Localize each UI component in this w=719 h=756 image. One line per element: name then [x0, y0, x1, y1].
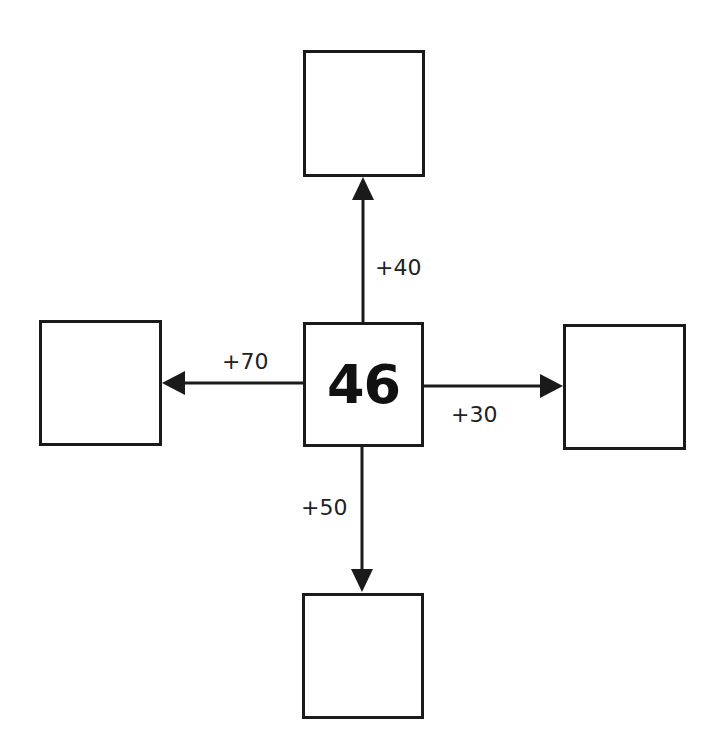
label-down-operation: +50: [301, 497, 347, 519]
arrowhead-down-icon: [351, 569, 373, 592]
arrowhead-left-icon: [162, 371, 185, 395]
arrow-left: [162, 371, 303, 395]
arrowhead-up-icon: [352, 177, 374, 200]
answer-box-top[interactable]: [303, 50, 425, 177]
arrow-down: [351, 446, 373, 592]
label-left-operation: +70: [222, 351, 268, 373]
arrow-up: [352, 177, 374, 322]
label-right-operation: +30: [451, 404, 497, 426]
center-box: 46: [303, 322, 424, 447]
label-up-operation: +40: [375, 257, 421, 279]
answer-box-right[interactable]: [563, 324, 686, 450]
center-value: 46: [327, 353, 400, 416]
answer-box-bottom[interactable]: [302, 593, 424, 719]
arrow-right: [423, 374, 563, 398]
arrowhead-right-icon: [540, 374, 563, 398]
answer-box-left[interactable]: [39, 320, 162, 446]
